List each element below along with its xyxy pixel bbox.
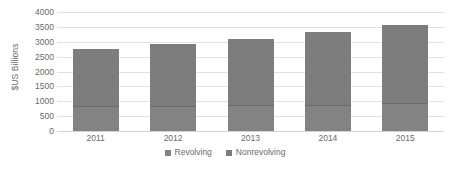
bar-segment-revolving[interactable] — [382, 103, 428, 131]
legend-label: Revolving — [175, 148, 212, 157]
bar-series-container — [57, 12, 444, 131]
x-axis-tick-label: 2015 — [375, 133, 435, 143]
bar-segment-nonrevolving[interactable] — [382, 25, 428, 103]
chart-legend: RevolvingNonrevolving — [0, 148, 450, 157]
y-axis-tick-label: 3000 — [35, 38, 54, 47]
bar-segment-revolving[interactable] — [73, 106, 119, 131]
bar-group[interactable] — [150, 44, 196, 131]
bar-segment-nonrevolving[interactable] — [150, 44, 196, 106]
y-axis-title-label: $US Billions — [10, 43, 20, 90]
bar-segment-revolving[interactable] — [228, 105, 274, 131]
y-axis-tick-label: 1000 — [35, 97, 54, 106]
bar-group[interactable] — [73, 49, 119, 131]
y-axis-tick-label: 1500 — [35, 82, 54, 91]
legend-swatch-revolving-icon — [165, 150, 171, 156]
y-axis-tick-labels: 40003500300025002000150010005000 — [20, 12, 54, 131]
x-axis-tick-label: 2014 — [298, 133, 358, 143]
gridline — [57, 131, 444, 132]
y-axis-tick-label: 3500 — [35, 23, 54, 32]
y-axis-tick-label: 0 — [49, 127, 54, 136]
legend-item[interactable]: Nonrevolving — [226, 148, 286, 157]
bar-segment-revolving[interactable] — [150, 106, 196, 131]
bar-segment-nonrevolving[interactable] — [73, 49, 119, 106]
y-axis-tick-label: 4000 — [35, 8, 54, 17]
plot-area — [57, 12, 444, 131]
y-axis-tick-label: 500 — [40, 112, 54, 121]
y-axis-tick-label: 2500 — [35, 52, 54, 61]
bar-segment-nonrevolving[interactable] — [305, 32, 351, 104]
bar-group[interactable] — [305, 32, 351, 131]
bar-group[interactable] — [382, 25, 428, 131]
bar-segment-nonrevolving[interactable] — [228, 39, 274, 105]
x-axis-tick-labels: 20112012201320142015 — [57, 133, 444, 147]
legend-item[interactable]: Revolving — [165, 148, 212, 157]
stacked-bar-chart: $US Billions 400035003000250020001500100… — [0, 0, 450, 171]
bar-segment-revolving[interactable] — [305, 105, 351, 131]
bar-group[interactable] — [228, 39, 274, 131]
x-axis-tick-label: 2011 — [66, 133, 126, 143]
y-axis-tick-label: 2000 — [35, 67, 54, 76]
legend-label: Nonrevolving — [236, 148, 286, 157]
x-axis-tick-label: 2013 — [221, 133, 281, 143]
legend-swatch-nonrevolving-icon — [226, 150, 232, 156]
x-axis-tick-label: 2012 — [143, 133, 203, 143]
